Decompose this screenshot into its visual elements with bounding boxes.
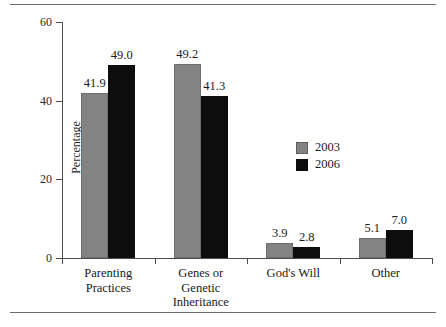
bar-value-label: 2.8: [287, 231, 327, 244]
bar-2003-1: [81, 93, 108, 258]
legend-item-2003: 2003: [296, 139, 366, 156]
top-divider-rule: [10, 4, 436, 5]
bar-value-label: 7.0: [379, 214, 419, 227]
category-label-line: Inheritance: [146, 295, 256, 310]
gray-swatch-icon: [296, 142, 308, 154]
bar-value-label: 41.3: [194, 80, 234, 93]
chart-legend: 2003 2006: [296, 139, 366, 173]
category-label-line: Genetic: [146, 281, 256, 296]
y-tick-mark: [56, 101, 62, 102]
bar-2006-1: [108, 65, 135, 258]
y-tick-label: 0: [14, 252, 52, 264]
y-tick-mark: [56, 179, 62, 180]
bar-2006-4: [386, 230, 413, 258]
legend-label-2006: 2006: [315, 158, 340, 171]
category-label-4: Other: [331, 266, 441, 281]
y-tick-label: 40: [14, 95, 52, 107]
bar-2006-2: [201, 96, 228, 258]
x-tick-mark: [340, 258, 341, 264]
bottom-divider-rule: [10, 312, 436, 313]
bar-2003-3: [266, 243, 293, 258]
x-tick-mark: [247, 258, 248, 264]
legend-item-2006: 2006: [296, 156, 366, 173]
y-tick-label: 20: [14, 173, 52, 185]
x-tick-mark: [155, 258, 156, 264]
black-swatch-icon: [296, 159, 308, 171]
category-label-line: Other: [331, 266, 441, 281]
bar-2006-3: [293, 247, 320, 258]
y-tick-mark: [56, 22, 62, 23]
x-tick-mark: [62, 258, 63, 264]
x-tick-mark: [432, 258, 433, 264]
bar-value-label: 49.0: [102, 49, 142, 62]
y-tick-label: 60: [14, 16, 52, 28]
bar-chart-figure: Percentage 0204060 41.949.049.241.33.92.…: [0, 0, 446, 327]
bar-2003-2: [174, 64, 201, 258]
bar-2003-4: [359, 238, 386, 258]
legend-label-2003: 2003: [315, 141, 340, 154]
bar-value-label: 49.2: [167, 48, 207, 61]
